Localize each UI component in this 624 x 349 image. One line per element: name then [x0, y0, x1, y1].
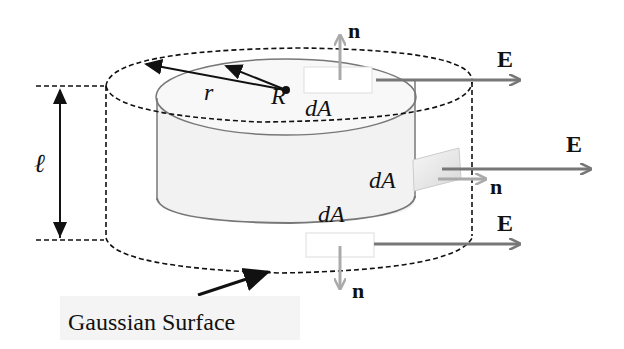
top-area-patch — [304, 67, 372, 93]
label-n-side: n — [490, 174, 502, 199]
label-dA-top: dA — [305, 95, 332, 121]
label-E-top: E — [497, 46, 513, 72]
label-E-side: E — [566, 131, 582, 157]
gaussian-surface-diagram: R r ℓ dA dA dA n n n E E E Gaussian Surf… — [0, 0, 624, 349]
label-dA-bottom: dA — [318, 201, 345, 227]
label-R: R — [270, 83, 286, 109]
label-n-bottom: n — [352, 278, 364, 303]
charged-cylinder — [156, 59, 416, 223]
caption-pointer-arrow — [198, 272, 268, 295]
label-n-top: n — [348, 18, 360, 43]
label-dA-side: dA — [369, 167, 396, 193]
diagram-canvas: R r ℓ dA dA dA n n n E E E Gaussian Surf… — [0, 0, 624, 349]
label-length: ℓ — [34, 149, 45, 178]
label-r: r — [204, 79, 214, 105]
caption-gaussian-surface: Gaussian Surface — [68, 309, 235, 335]
label-E-bottom: E — [497, 210, 513, 236]
